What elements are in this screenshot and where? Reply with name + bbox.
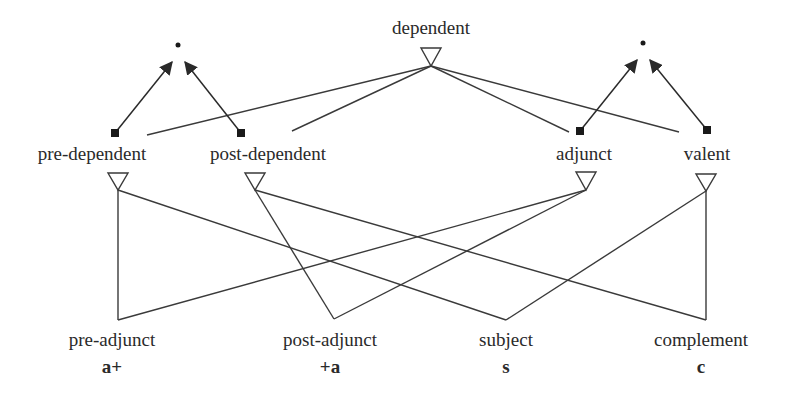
valent-triangle-icon xyxy=(696,174,716,191)
node-dependent: dependent xyxy=(392,18,470,37)
post-dependent-square-icon xyxy=(237,129,245,137)
edge-line xyxy=(118,190,586,320)
lower-edges xyxy=(118,190,706,320)
abbr-pre-adjunct: a+ xyxy=(102,357,122,376)
edge-line xyxy=(506,191,706,320)
abbr-subject: s xyxy=(502,357,509,376)
arrow-line xyxy=(580,60,637,131)
triangles xyxy=(108,48,716,191)
arrow-line xyxy=(650,60,707,130)
adjunct-square-icon xyxy=(576,127,584,135)
node-adjunct: adjunct xyxy=(556,144,612,163)
dependency-type-hierarchy-diagram: dependent pre-dependent post-dependent a… xyxy=(0,0,788,405)
abbr-complement: c xyxy=(697,357,705,376)
abbr-post-adjunct: +a xyxy=(320,357,340,376)
upper-edges xyxy=(147,66,679,135)
node-pre-adjunct: pre-adjunct xyxy=(69,330,156,349)
node-post-adjunct: post-adjunct xyxy=(283,330,377,349)
edge-line xyxy=(334,190,586,319)
adjunct-triangle-icon xyxy=(576,172,596,190)
edge-line xyxy=(431,66,679,132)
edge-line xyxy=(292,66,431,131)
left-dot-icon xyxy=(176,43,181,48)
node-pre-dependent: pre-dependent xyxy=(38,144,147,163)
arrow-line xyxy=(115,62,172,133)
pre-dependent-triangle-icon xyxy=(108,173,128,190)
right-dot-icon xyxy=(641,41,646,46)
dots xyxy=(176,41,646,48)
edge-line xyxy=(118,190,506,320)
pre-dependent-square-icon xyxy=(111,129,119,137)
squares xyxy=(111,126,711,137)
edge-line xyxy=(431,66,569,132)
edge-line xyxy=(147,66,431,135)
node-complement: complement xyxy=(654,330,748,349)
node-valent: valent xyxy=(684,144,730,163)
dependent-triangle-icon xyxy=(421,48,441,66)
arrow-line xyxy=(185,62,241,133)
post-dependent-triangle-icon xyxy=(245,173,265,190)
node-subject: subject xyxy=(479,330,533,349)
node-post-dependent: post-dependent xyxy=(210,144,326,163)
valent-square-icon xyxy=(703,126,711,134)
